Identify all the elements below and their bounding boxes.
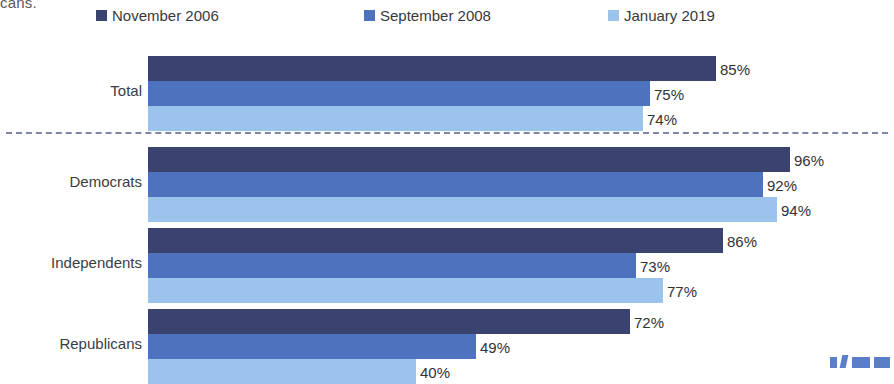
legend-label-september-2008: September 2008 bbox=[380, 8, 491, 23]
bar-row-democrats-january-2019: 94% bbox=[148, 197, 894, 222]
legend-swatch-january-2019 bbox=[608, 10, 619, 21]
legend-label-january-2019: January 2019 bbox=[624, 8, 715, 23]
legend-swatch-september-2008 bbox=[364, 10, 375, 21]
bar-value-independents-january-2019: 77% bbox=[663, 282, 697, 299]
legend-label-november-2006: November 2006 bbox=[112, 8, 219, 23]
bar-row-republicans-january-2019: 40% bbox=[148, 359, 894, 384]
category-label-republicans: Republicans bbox=[0, 335, 142, 352]
bar-group-democrats: Democrats 96% 92% 94% bbox=[0, 147, 894, 222]
bar-total-january-2019 bbox=[148, 106, 643, 131]
bar-republicans-november-2006 bbox=[148, 309, 630, 334]
bar-value-democrats-september-2008: 92% bbox=[763, 176, 797, 193]
bar-row-republicans-november-2006: 72% bbox=[148, 309, 894, 334]
bar-independents-september-2008 bbox=[148, 253, 636, 278]
bar-democrats-january-2019 bbox=[148, 197, 777, 222]
category-label-independents: Independents bbox=[0, 254, 142, 271]
bars-democrats: 96% 92% 94% bbox=[148, 147, 894, 222]
legend-item-november-2006: November 2006 bbox=[96, 8, 219, 23]
category-label-democrats: Democrats bbox=[0, 173, 142, 190]
bar-democrats-november-2006 bbox=[148, 147, 790, 172]
bar-value-total-november-2006: 85% bbox=[716, 60, 750, 77]
legend-swatch-november-2006 bbox=[96, 10, 107, 21]
bar-republicans-january-2019 bbox=[148, 359, 416, 384]
bar-row-total-september-2008: 75% bbox=[148, 81, 894, 106]
bar-republicans-september-2008 bbox=[148, 334, 476, 359]
legend-item-september-2008: September 2008 bbox=[364, 8, 491, 23]
bar-row-republicans-september-2008: 49% bbox=[148, 334, 894, 359]
bar-group-independents: Independents 86% 73% 77% bbox=[0, 228, 894, 303]
bar-row-independents-november-2006: 86% bbox=[148, 228, 894, 253]
bar-row-independents-september-2008: 73% bbox=[148, 253, 894, 278]
bars-total: 85% 75% 74% bbox=[148, 56, 894, 131]
bar-value-democrats-november-2006: 96% bbox=[790, 151, 824, 168]
bars-republicans: 72% 49% 40% bbox=[148, 309, 894, 384]
bar-total-november-2006 bbox=[148, 56, 716, 81]
group-separator-line bbox=[6, 132, 888, 134]
bar-independents-january-2019 bbox=[148, 278, 663, 303]
bar-value-total-september-2008: 75% bbox=[650, 85, 684, 102]
bar-democrats-september-2008 bbox=[148, 172, 763, 197]
bar-chart-plot-area: Total 85% 75% 74% Democrats 96% bbox=[0, 44, 894, 368]
bar-value-republicans-january-2019: 40% bbox=[416, 363, 450, 380]
chart-legend: November 2006 September 2008 January 201… bbox=[0, 8, 894, 30]
bar-value-republicans-november-2006: 72% bbox=[630, 313, 664, 330]
bar-value-democrats-january-2019: 94% bbox=[777, 201, 811, 218]
bar-value-republicans-september-2008: 49% bbox=[476, 338, 510, 355]
bar-value-total-january-2019: 74% bbox=[643, 110, 677, 127]
bar-row-democrats-september-2008: 92% bbox=[148, 172, 894, 197]
bar-independents-november-2006 bbox=[148, 228, 723, 253]
bar-row-total-january-2019: 74% bbox=[148, 106, 894, 131]
bar-total-september-2008 bbox=[148, 81, 650, 106]
bars-independents: 86% 73% 77% bbox=[148, 228, 894, 303]
bar-group-total: Total 85% 75% 74% bbox=[0, 56, 894, 131]
bar-row-total-november-2006: 85% bbox=[148, 56, 894, 81]
bar-value-independents-november-2006: 86% bbox=[723, 232, 757, 249]
bar-row-democrats-november-2006: 96% bbox=[148, 147, 894, 172]
bar-row-independents-january-2019: 77% bbox=[148, 278, 894, 303]
bar-value-independents-september-2008: 73% bbox=[636, 257, 670, 274]
category-label-total: Total bbox=[0, 82, 142, 99]
bar-group-republicans: Republicans 72% 49% 40% bbox=[0, 309, 894, 384]
legend-item-january-2019: January 2019 bbox=[608, 8, 715, 23]
publisher-logo-icon bbox=[830, 346, 892, 368]
